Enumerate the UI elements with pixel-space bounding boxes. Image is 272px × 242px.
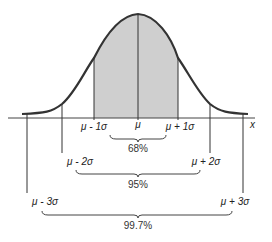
- label-mu: μ: [134, 119, 141, 130]
- brace-95: [76, 170, 200, 177]
- label-minus2: μ - 2σ: [66, 156, 94, 167]
- label-plus3: μ + 3σ: [220, 196, 250, 207]
- brace-99-7: [42, 211, 232, 218]
- label-minus1: μ - 1σ: [80, 121, 108, 132]
- percent-99-7: 99.7%: [124, 220, 152, 231]
- label-plus2: μ + 2σ: [191, 156, 221, 167]
- percent-95: 95%: [128, 179, 148, 190]
- percent-68: 68%: [128, 143, 148, 154]
- normal-distribution-diagram: μ - 1σ μ μ + 1σ x 68% μ - 2σ μ + 2σ 95% …: [0, 0, 272, 242]
- one-sigma-shaded-area: [94, 14, 178, 118]
- axis-label-x: x: [249, 119, 256, 130]
- label-plus1: μ + 1σ: [165, 121, 195, 132]
- brace-68: [110, 135, 166, 142]
- label-minus3: μ - 3σ: [31, 196, 59, 207]
